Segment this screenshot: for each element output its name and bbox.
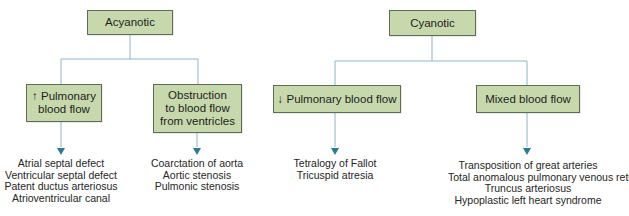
decreased-flow-defects-list: Tetralogy of Fallot Tricuspid atresia: [285, 158, 385, 181]
decreased-pulmonary-flow-label: ↓ Pulmonary blood flow: [278, 93, 397, 106]
decreased-pulmonary-flow-box: ↓ Pulmonary blood flow: [273, 85, 401, 113]
list-item: Hypoplastic left heart syndrome: [448, 195, 608, 207]
arrowhead-icon: [331, 148, 339, 155]
mixed-flow-defects-list: Transposition of great arteries Total an…: [448, 160, 608, 206]
list-item: Tricuspid atresia: [285, 170, 385, 182]
list-item: Atrial septal defect: [0, 158, 122, 170]
list-item: Tetralogy of Fallot: [285, 158, 385, 170]
list-item: Pulmonic stenosis: [140, 181, 254, 193]
cyanotic-box: Cyanotic: [389, 10, 476, 36]
cyanotic-label: Cyanotic: [410, 17, 455, 30]
arrowhead-icon: [523, 148, 531, 155]
list-item: Coarctation of aorta: [140, 158, 254, 170]
mixed-blood-flow-box: Mixed blood flow: [476, 85, 580, 113]
list-item: Atrioventricular canal: [0, 193, 122, 205]
arrowhead-icon: [57, 148, 65, 155]
obstruction-defects-list: Coarctation of aorta Aortic stenosis Pul…: [140, 158, 254, 193]
obstruction-label: Obstruction to blood flow from ventricle…: [160, 89, 235, 128]
arrowhead-icon: [193, 148, 201, 155]
list-item: Transposition of great arteries: [448, 160, 608, 172]
acyanotic-box: Acyanotic: [87, 10, 173, 35]
increased-pulmonary-flow-label: ↑ Pulmonary blood flow: [32, 90, 96, 116]
mixed-blood-flow-label: Mixed blood flow: [485, 93, 571, 106]
increased-pulmonary-flow-box: ↑ Pulmonary blood flow: [26, 84, 102, 122]
increased-flow-defects-list: Atrial septal defect Ventricular septal …: [0, 158, 122, 204]
acyanotic-label: Acyanotic: [105, 16, 155, 29]
obstruction-box: Obstruction to blood flow from ventricle…: [153, 84, 242, 133]
